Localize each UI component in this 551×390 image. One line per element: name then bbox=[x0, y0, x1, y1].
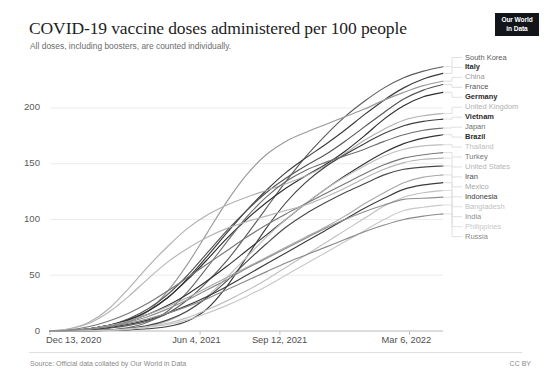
series-line-france[interactable] bbox=[50, 85, 443, 331]
legend-label-thailand[interactable]: Thailand bbox=[465, 143, 494, 151]
series-line-germany[interactable] bbox=[50, 92, 443, 331]
legend-label-vietnam[interactable]: Vietnam bbox=[465, 113, 494, 121]
x-tick-2: Sep 12, 2021 bbox=[252, 335, 307, 345]
series-line-bangladesh[interactable] bbox=[50, 190, 443, 331]
y-tick-150: 150 bbox=[6, 157, 40, 168]
series-line-russia[interactable] bbox=[50, 214, 443, 331]
legend-label-france[interactable]: France bbox=[465, 83, 488, 91]
x-tick-1: Jun 4, 2021 bbox=[172, 335, 221, 345]
legend-label-mexico[interactable]: Mexico bbox=[465, 183, 489, 191]
legend-label-united-kingdom[interactable]: United Kingdom bbox=[465, 103, 518, 111]
chart-container: COVID-19 vaccine doses administered per … bbox=[0, 0, 551, 390]
series-line-iran[interactable] bbox=[50, 166, 443, 331]
license-note: CC BY bbox=[510, 360, 531, 367]
y-tick-50: 50 bbox=[6, 269, 40, 280]
y-tick-0: 0 bbox=[6, 325, 40, 336]
legend-label-south-korea[interactable]: South Korea bbox=[465, 54, 507, 62]
chart-legend: South KoreaItalyChinaFranceGermanyUnited… bbox=[460, 0, 551, 390]
legend-label-indonesia[interactable]: Indonesia bbox=[465, 193, 498, 201]
legend-label-india[interactable]: India bbox=[465, 213, 481, 221]
legend-label-philippines[interactable]: Philippines bbox=[465, 223, 501, 231]
y-tick-100: 100 bbox=[6, 213, 40, 224]
legend-label-united-states[interactable]: United States bbox=[465, 163, 510, 171]
footer-divider bbox=[29, 352, 522, 353]
legend-label-russia[interactable]: Russia bbox=[465, 233, 488, 241]
x-tick-3: Mar 6, 2022 bbox=[382, 335, 432, 345]
series-line-turkey[interactable] bbox=[50, 153, 443, 331]
legend-label-brazil[interactable]: Brazil bbox=[465, 133, 485, 141]
x-tick-0: Dec 13, 2020 bbox=[46, 335, 101, 345]
legend-label-turkey[interactable]: Turkey bbox=[465, 153, 488, 161]
legend-label-italy[interactable]: Italy bbox=[465, 63, 480, 71]
series-line-united-states[interactable] bbox=[50, 158, 443, 331]
source-note: Source: Official data collated by Our Wo… bbox=[30, 360, 186, 367]
legend-label-china[interactable]: China bbox=[465, 73, 485, 81]
legend-label-germany[interactable]: Germany bbox=[465, 93, 498, 101]
y-tick-200: 200 bbox=[6, 101, 40, 112]
legend-label-bangladesh[interactable]: Bangladesh bbox=[465, 203, 505, 211]
legend-label-iran[interactable]: Iran bbox=[465, 173, 478, 181]
series-line-japan[interactable] bbox=[50, 128, 443, 331]
legend-label-japan[interactable]: Japan bbox=[465, 123, 485, 131]
